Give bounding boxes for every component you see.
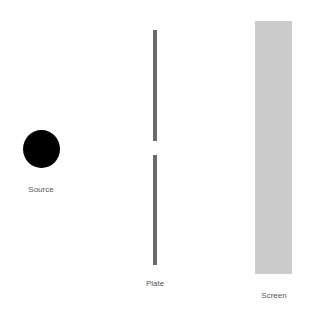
plate-top-segment bbox=[153, 30, 157, 141]
source-label: Source bbox=[28, 185, 53, 194]
plate-bottom-segment bbox=[153, 155, 157, 265]
screen-label: Screen bbox=[261, 291, 286, 300]
plate-label: Plate bbox=[146, 279, 164, 288]
screen-rect bbox=[255, 21, 292, 274]
source-circle bbox=[23, 130, 60, 168]
